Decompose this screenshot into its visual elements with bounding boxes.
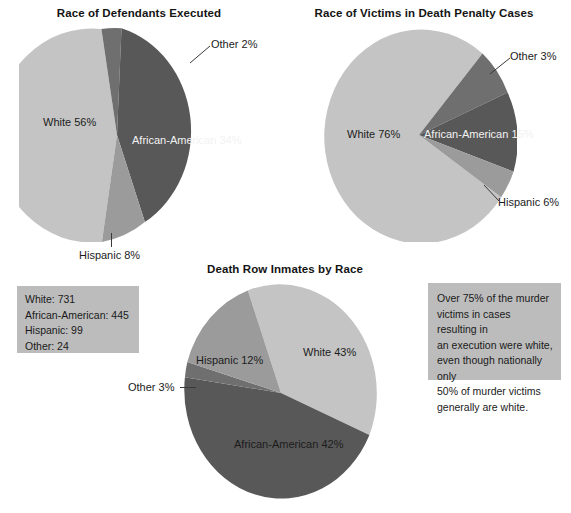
pie-label-defendants-african-american: African-American 34% [132,134,241,146]
leader-line-victims-hispanic [483,184,500,202]
counts-hispanic: Hispanic: 99 [25,323,139,339]
note-line-2: victims in cases resulting in [437,307,553,338]
pie-label-defendants-hispanic: Hispanic 8% [79,249,140,261]
chart-title-defendants: Race of Defendants Executed [44,7,234,19]
counts-other: Other: 24 [25,339,139,355]
note-line-5: 50% of murder victims [437,384,553,400]
pie-label-inmates-white: White 43% [303,346,356,358]
pie-label-defendants-white: White 56% [43,116,96,128]
chart-title-victims: Race of Victims in Death Penalty Cases [312,7,536,19]
leader-line-defendants-hispanic [111,233,112,247]
pie-label-defendants-other: Other 2% [211,38,257,50]
leader-line-victims-other [489,56,511,75]
note-box: Over 75% of the murder victims in cases … [428,283,561,380]
counts-white: White: 731 [25,292,139,308]
note-line-6: generally are white. [437,400,553,416]
note-line-3: an execution were white, [437,338,553,354]
pie-label-inmates-african-american: African-American 42% [234,438,343,450]
leader-line-defendants-other [189,44,211,64]
pie-chart-inmates [183,284,379,502]
pie-label-victims-other: Other 3% [510,50,556,62]
note-line-1: Over 75% of the murder [437,291,553,307]
pie-label-victims-african-american: African-American 15% [424,128,533,140]
leader-line-inmates-other [180,387,196,388]
counts-african-american: African-American: 445 [25,308,139,324]
slice-white [19,29,117,242]
pie-label-victims-white: White 76% [347,128,400,140]
pie-inmates-svg [183,284,379,502]
pie-label-inmates-other: Other 3% [128,381,174,393]
note-line-4: even though nationally only [437,353,553,384]
pie-label-inmates-hispanic: Hispanic 12% [196,354,263,366]
chart-title-inmates: Death Row Inmates by Race [192,263,378,275]
pie-label-victims-hispanic: Hispanic 6% [498,196,559,208]
counts-box: White: 731 African-American: 445 Hispani… [17,286,139,353]
